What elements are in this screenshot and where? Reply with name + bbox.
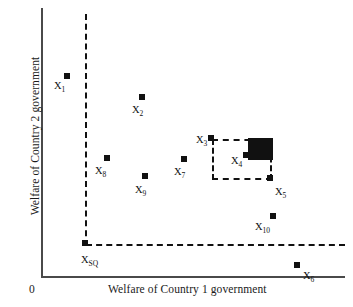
- data-point-x9: [142, 173, 148, 179]
- data-point-label-x1: X1: [54, 80, 65, 94]
- y-axis-label: Welfare of Country 2 government: [29, 36, 41, 236]
- data-point-label-x3: X3: [196, 134, 207, 148]
- data-point-x4: [243, 152, 249, 158]
- x-axis-label: Welfare of Country 1 government: [108, 283, 267, 295]
- data-point-x8: [104, 155, 110, 161]
- data-point-label-x8: X8: [95, 165, 106, 179]
- y-axis-line: [41, 8, 43, 278]
- x-axis-line: [41, 276, 345, 278]
- status-quo-vertical-line: [85, 14, 87, 246]
- core-region-rectangle: [248, 138, 273, 160]
- data-point-x6: [294, 262, 300, 268]
- data-point-x1: [64, 73, 70, 79]
- scatter-plot-figure: Welfare of Country 2 government Welfare …: [0, 0, 353, 307]
- status-quo-horizontal-line: [86, 244, 345, 246]
- data-point-label-x5: X5: [275, 186, 286, 200]
- data-point-x2: [139, 94, 145, 100]
- data-point-label-x2: X2: [132, 104, 143, 118]
- data-point-x10: [270, 213, 276, 219]
- data-point-label-xsq: XSQ: [81, 254, 98, 268]
- data-point-xsq: [82, 240, 88, 246]
- data-point-label-x4: X4: [231, 155, 242, 169]
- origin-label: 0: [29, 283, 35, 295]
- data-point-x3: [208, 135, 214, 141]
- data-point-label-x7: X7: [174, 166, 185, 180]
- data-point-label-x6: X6: [303, 270, 314, 284]
- data-point-x7: [181, 156, 187, 162]
- data-point-label-x9: X9: [135, 184, 146, 198]
- data-point-label-x10: X10: [255, 221, 270, 235]
- data-point-x5: [267, 175, 273, 181]
